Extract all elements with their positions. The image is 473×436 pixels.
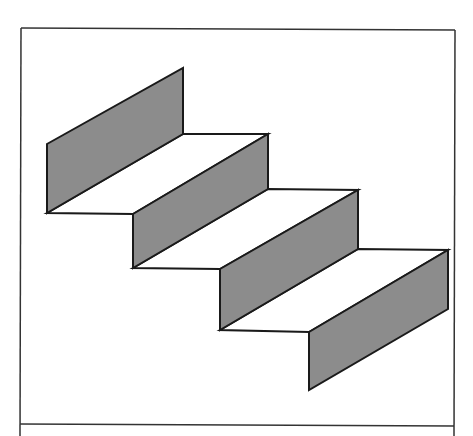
schroeder-staircase-figure	[0, 0, 473, 436]
frame-left-edge	[20, 28, 21, 436]
frame-bottom-edge	[20, 424, 454, 426]
frame-right-edge	[454, 30, 455, 436]
frame-top-edge	[21, 28, 455, 30]
